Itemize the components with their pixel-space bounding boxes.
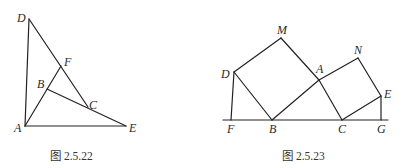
figure-caption: 图 2.5.23 bbox=[282, 150, 325, 162]
point-label-M: M bbox=[276, 23, 288, 37]
point-label-E: E bbox=[383, 87, 392, 101]
segment-MA bbox=[281, 38, 319, 80]
point-label-B: B bbox=[37, 77, 45, 91]
figure-caption: 图 2.5.22 bbox=[50, 150, 93, 162]
point-label-D: D bbox=[220, 67, 230, 81]
figure-2-5-22: DFBCAE 图 2.5.22 bbox=[13, 11, 137, 162]
point-label-C: C bbox=[338, 122, 347, 136]
segment-DF bbox=[231, 72, 234, 120]
segment-DM bbox=[234, 38, 281, 72]
point-label-A: A bbox=[13, 121, 22, 135]
segment-AB bbox=[272, 80, 319, 120]
segment-NE bbox=[358, 58, 381, 96]
point-label-G: G bbox=[377, 122, 386, 136]
segment-CA bbox=[319, 80, 342, 120]
segment-DA bbox=[25, 19, 29, 126]
point-label-F: F bbox=[226, 122, 235, 136]
figure-2-5-23: MDANEFBCG 图 2.5.23 bbox=[220, 23, 392, 162]
point-label-B: B bbox=[269, 122, 277, 136]
point-label-D: D bbox=[16, 11, 26, 25]
segment-BE bbox=[47, 89, 126, 126]
point-label-E: E bbox=[128, 121, 137, 135]
point-label-A: A bbox=[315, 62, 324, 76]
point-label-F: F bbox=[63, 55, 72, 69]
segment-BD bbox=[234, 72, 272, 120]
point-label-N: N bbox=[353, 43, 363, 57]
segment-AF bbox=[25, 66, 61, 126]
segment-EC bbox=[342, 96, 381, 120]
segment-AN bbox=[319, 58, 358, 80]
point-label-C: C bbox=[89, 98, 98, 112]
geometry-figures: DFBCAE 图 2.5.22 MDANEFBCG 图 2.5.23 bbox=[0, 0, 403, 168]
